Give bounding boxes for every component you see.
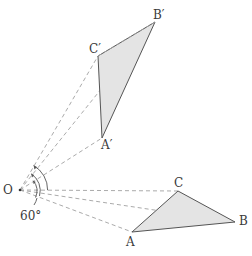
label-B: B: [239, 215, 248, 227]
ray-OC-prime: [20, 56, 98, 190]
triangle-ABC: [132, 191, 235, 232]
angle-arcs: [31, 166, 47, 206]
triangle-A-prime-B-prime-C-prime: [98, 22, 155, 138]
ray-OC: [20, 190, 178, 191]
arc-arrowheads: [31, 166, 37, 185]
label-B-prime: B′: [153, 9, 165, 21]
label-C-prime: C′: [89, 43, 101, 55]
point-O-dot: [19, 189, 22, 192]
label-A: A: [126, 236, 135, 248]
label-A-prime: A′: [101, 139, 112, 151]
angle-label: 60°: [20, 210, 41, 222]
ray-OA-prime: [20, 138, 102, 190]
rotation-diagram: O A B C A′ B′ C′ 60°: [0, 0, 252, 256]
label-O: O: [3, 184, 13, 196]
label-C: C: [174, 177, 183, 189]
